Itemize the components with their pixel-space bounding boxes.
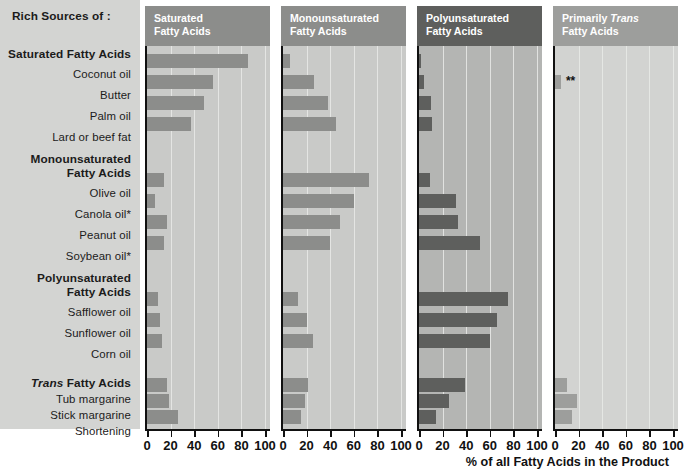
- axis-tick-60: [490, 429, 492, 437]
- bar-corn-oil: [283, 334, 313, 348]
- axis-tick-label-100: 100: [390, 438, 412, 453]
- bar-stick-margarine: [555, 394, 577, 408]
- row-label-palm-oil: Palm oil: [90, 110, 131, 122]
- axis-monounsaturated: [281, 429, 406, 438]
- row-label-safflower-oil: Safflower oil: [68, 306, 131, 318]
- bar-olive-oil: [419, 173, 430, 187]
- axis-tick-label-20: 20: [571, 438, 585, 453]
- panel-title-polyunsaturated: Polyunsaturated Fatty Acids: [417, 6, 542, 46]
- bar-tub-margarine: [555, 378, 567, 392]
- group-heading-trans-rest: Fatty Acids: [63, 376, 131, 390]
- bar-corn-oil: [147, 334, 162, 348]
- plot-area-polyunsaturated: [417, 46, 542, 429]
- axis-tick-label-80: 80: [506, 438, 520, 453]
- gridline-60: [354, 46, 355, 429]
- gridline-60: [626, 46, 627, 429]
- chart-title: Rich Sources of :: [12, 10, 111, 22]
- panel-title-italic-word: Trans: [610, 12, 639, 24]
- axis-tick-label-20: 20: [163, 438, 177, 453]
- group-heading-polyunsaturated-line1: Polyunsaturated: [37, 272, 131, 284]
- bar-soybean-oil-: [283, 236, 330, 250]
- bar-shortening: [283, 410, 301, 424]
- bar-soybean-oil-: [147, 236, 164, 250]
- panel-title-monounsaturated: Monounsaturated Fatty Acids: [281, 6, 406, 46]
- bar-safflower-oil: [283, 292, 298, 306]
- group-heading-monounsaturated-line2: Fatty Acids: [67, 167, 131, 179]
- group-heading-trans-italic: Trans: [31, 376, 63, 390]
- axis-tick-80: [649, 429, 651, 437]
- axis-tick-label-0: 0: [551, 438, 558, 453]
- axis-tick-0: [147, 429, 149, 437]
- bar-shortening: [555, 410, 572, 424]
- panel-title-line1: Polyunsaturated: [426, 12, 509, 24]
- axis-tick-label-100: 100: [526, 438, 548, 453]
- row-label-lard-or-beef-fat: Lard or beef fat: [52, 131, 131, 143]
- gridline-100: [401, 46, 402, 429]
- row-label-peanut-oil: Peanut oil: [79, 229, 131, 241]
- row-label-column: Rich Sources of : Saturated Fatty Acids …: [0, 0, 140, 429]
- group-heading-monounsaturated-line1: Monounsaturated: [31, 153, 131, 165]
- axis-tick-80: [513, 429, 515, 437]
- plot-area-primarily-trans: **: [553, 46, 678, 429]
- axis-tick-20: [579, 429, 581, 437]
- axis-tick-label-60: 60: [483, 438, 497, 453]
- panel-title-line2: Fatty Acids: [154, 25, 211, 37]
- bar-lard-or-beef-fat: [283, 117, 336, 131]
- row-label-corn-oil: Corn oil: [91, 348, 131, 360]
- plot-area-saturated: [145, 46, 270, 429]
- bar-coconut-oil: [419, 54, 421, 68]
- axis-tick-100: [673, 429, 675, 437]
- axis-saturated: [145, 429, 270, 438]
- axis-tick-100: [265, 429, 267, 437]
- axis-polyunsaturated: [417, 429, 542, 438]
- bar-shortening: [147, 410, 178, 424]
- axis-tick-label-0: 0: [143, 438, 150, 453]
- bar-tub-margarine: [283, 378, 308, 392]
- bar-palm-oil: [283, 96, 328, 110]
- axis-tick-0: [555, 429, 557, 437]
- axis-tick-label-80: 80: [642, 438, 656, 453]
- bar-soybean-oil-: [419, 236, 480, 250]
- bar-olive-oil: [283, 173, 369, 187]
- group-heading-saturated: Saturated Fatty Acids: [8, 48, 131, 60]
- axis-tick-label-40: 40: [323, 438, 337, 453]
- plot-area-monounsaturated: [281, 46, 406, 429]
- axis-tick-60: [626, 429, 628, 437]
- gridline-60: [218, 46, 219, 429]
- bar-canola-oil-: [283, 194, 354, 208]
- bar-lard-or-beef-fat: [419, 117, 432, 131]
- gridline-80: [513, 46, 514, 429]
- panel-title-line1: Saturated: [154, 12, 203, 24]
- row-label-shortening: Shortening: [75, 425, 131, 437]
- panel-primarily-trans: Primarily Trans Fatty Acids ** 020406080…: [553, 0, 678, 429]
- gridline-60: [490, 46, 491, 429]
- axis-tick-label-80: 80: [370, 438, 384, 453]
- gridline-40: [602, 46, 603, 429]
- axis-tick-100: [401, 429, 403, 437]
- axis-tick-80: [377, 429, 379, 437]
- bar-peanut-oil: [283, 215, 340, 229]
- axis-tick-20: [307, 429, 309, 437]
- row-label-sunflower-oil: Sunflower oil: [64, 327, 131, 339]
- axis-tick-40: [194, 429, 196, 437]
- bar-safflower-oil: [147, 292, 158, 306]
- bar-butter: [147, 75, 213, 89]
- axis-tick-40: [330, 429, 332, 437]
- bar-tub-margarine: [147, 378, 167, 392]
- bar-stick-margarine: [419, 394, 449, 408]
- bar-olive-oil: [147, 173, 164, 187]
- bar-shortening: [419, 410, 436, 424]
- axis-tick-label-60: 60: [347, 438, 361, 453]
- bar-lard-or-beef-fat: [147, 117, 191, 131]
- axis-tick-label-0: 0: [279, 438, 286, 453]
- panel-title-line2: Fatty Acids: [426, 25, 483, 37]
- axis-tick-0: [283, 429, 285, 437]
- annotation-marker: **: [566, 76, 575, 86]
- gridline-80: [377, 46, 378, 429]
- axis-tick-60: [218, 429, 220, 437]
- gridline-100: [673, 46, 674, 429]
- bar-stick-margarine: [147, 394, 169, 408]
- axis-tick-60: [354, 429, 356, 437]
- panel-title-saturated: Saturated Fatty Acids: [145, 6, 270, 46]
